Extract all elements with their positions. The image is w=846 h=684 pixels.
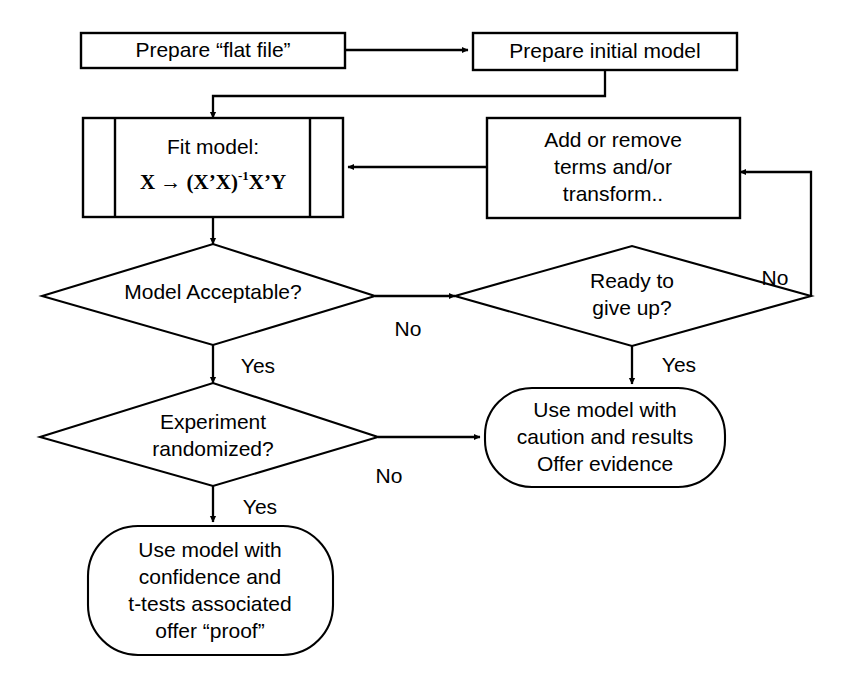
flowchart-canvas: Prepare “flat file” Prepare initial mode… [0,0,846,684]
node-model-acceptable[interactable]: Model Acceptable? [42,244,375,345]
node-model-acceptable-label: Model Acceptable? [124,280,301,303]
node-use-model-caution-line-3: Offer evidence [537,452,673,475]
edge-label-ready-give-up-yes: Yes [662,353,696,376]
node-fit-model-formula: X → (X’X)-1X’Y [140,168,286,194]
node-ready-to-give-up-line-1: Ready to [590,269,674,292]
node-ready-to-give-up[interactable]: Ready to give up? [455,246,811,346]
node-use-model-caution-line-2: caution and results [517,425,693,448]
node-prepare-flat-file-label: Prepare “flat file” [135,38,290,61]
edge-label-model-acceptable-no: No [395,317,422,340]
node-prepare-initial-model-label: Prepare initial model [509,39,700,62]
node-experiment-randomized-line-2: randomized? [152,437,273,460]
node-use-model-confidence-line-1: Use model with [138,538,282,561]
edge-label-experiment-yes: Yes [243,495,277,518]
node-use-model-caution-line-1: Use model with [533,398,677,421]
formula-lead: X → (X’X) [140,170,238,194]
node-add-or-remove[interactable]: Add or remove terms and/or transform.. [487,118,740,218]
node-use-model-confidence-line-2: confidence and [139,565,281,588]
node-prepare-initial-model[interactable]: Prepare initial model [473,33,737,70]
formula-exponent: -1 [238,168,249,183]
node-use-model-confidence-line-3: t-tests associated [128,592,291,615]
edge-label-model-acceptable-yes: Yes [241,354,275,377]
node-add-or-remove-line-1: Add or remove [544,128,682,151]
node-fit-model[interactable]: Fit model: X → (X’X)-1X’Y [83,118,343,217]
node-use-model-caution[interactable]: Use model with caution and results Offer… [485,388,725,487]
node-use-model-confidence[interactable]: Use model with confidence and t-tests as… [88,526,333,655]
node-ready-to-give-up-line-2: give up? [592,296,671,319]
edge-label-ready-give-up-no: No [762,266,789,289]
node-prepare-flat-file[interactable]: Prepare “flat file” [81,33,345,68]
edge-label-experiment-no: No [376,464,403,487]
node-add-or-remove-line-2: terms and/or [554,155,672,178]
node-experiment-randomized-line-1: Experiment [160,410,266,433]
formula-tail: X’Y [249,170,286,194]
node-fit-model-label: Fit model: [167,135,259,158]
node-use-model-confidence-line-4: offer “proof” [155,619,264,642]
edge-initialmodel-to-fitmodel [213,70,605,118]
node-experiment-randomized[interactable]: Experiment randomized? [40,383,378,486]
node-add-or-remove-line-3: transform.. [563,182,663,205]
flowchart-diagram: Prepare “flat file” Prepare initial mode… [0,0,846,684]
